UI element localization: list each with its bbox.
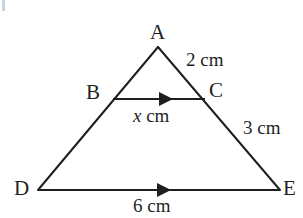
vertex-label-e: E [283, 178, 296, 199]
measurement-bc-unit: cm [146, 105, 169, 126]
vertex-label-a: A [150, 22, 165, 43]
measurement-label-de: 6 cm [133, 196, 170, 215]
measurement-label-ac: 2 cm [186, 50, 223, 69]
vertex-label-c: C [209, 80, 223, 101]
vertex-label-d: D [14, 178, 29, 199]
measurement-label-ce: 3 cm [243, 118, 280, 137]
geometry-figure: A B C D E 2 cm 3 cm 6 cm x cm [0, 0, 303, 218]
measurement-label-bc: x cm [133, 106, 169, 125]
vertex-label-b: B [86, 82, 100, 103]
